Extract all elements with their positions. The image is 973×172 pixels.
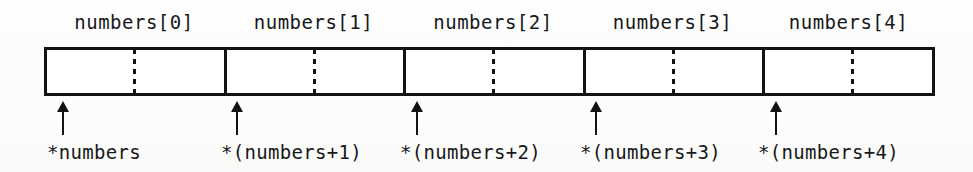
cell-header-2: numbers[2] — [403, 9, 583, 35]
cell-header-3: numbers[3] — [583, 9, 762, 35]
pointer-arrow-3 — [589, 101, 603, 135]
cell-divider-3-4 — [762, 47, 765, 96]
pointer-label-2: *(numbers+2) — [400, 139, 541, 165]
pointer-arrow-0 — [56, 101, 70, 135]
arrow-shaft — [775, 109, 777, 135]
arrow-shaft — [236, 109, 238, 135]
cell-dotted-midline-1 — [313, 49, 316, 94]
arrow-shaft — [595, 109, 597, 135]
cell-dotted-midline-4 — [851, 49, 854, 94]
cell-divider-1-2 — [403, 47, 406, 96]
pointer-label-3: *(numbers+3) — [580, 139, 721, 165]
pointer-arrow-1 — [230, 101, 244, 135]
cell-dotted-midline-2 — [492, 49, 495, 94]
cell-dotted-midline-0 — [133, 49, 136, 94]
arrow-shaft — [416, 109, 418, 135]
arrow-shaft — [62, 109, 64, 135]
cell-divider-0-1 — [224, 47, 227, 96]
array-pointer-diagram: numbers[0] numbers[1] numbers[2] numbers… — [0, 0, 973, 172]
cell-header-4: numbers[4] — [762, 9, 935, 35]
pointer-label-4: *(numbers+4) — [758, 139, 899, 165]
pointer-label-0: *numbers — [47, 139, 141, 165]
cell-dotted-midline-3 — [672, 49, 675, 94]
cell-header-0: numbers[0] — [44, 9, 224, 35]
cell-header-1: numbers[1] — [224, 9, 403, 35]
array-box-outline — [44, 47, 935, 96]
pointer-label-1: *(numbers+1) — [221, 139, 362, 165]
cell-divider-2-3 — [583, 47, 586, 96]
pointer-arrow-4 — [769, 101, 783, 135]
pointer-arrow-2 — [410, 101, 424, 135]
